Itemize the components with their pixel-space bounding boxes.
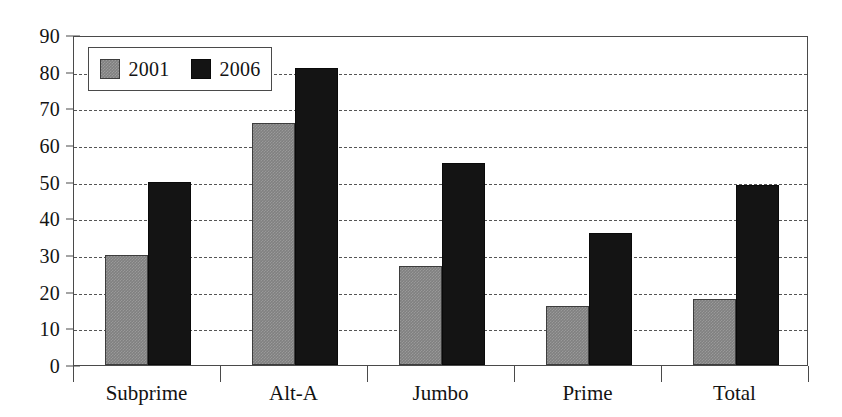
bar-alt-a-2001 bbox=[252, 123, 295, 365]
bar-chart: 0102030405060708090 SubprimeAlt-AJumboPr… bbox=[0, 0, 842, 417]
x-tick-mark bbox=[514, 366, 515, 382]
legend-entry-2006: 2006 bbox=[191, 59, 261, 79]
x-tick-label-subprime: Subprime bbox=[106, 383, 188, 404]
legend: 2001 2006 bbox=[88, 47, 272, 91]
legend-swatch-2006-icon bbox=[191, 59, 211, 79]
x-tick-label-jumbo: Jumbo bbox=[412, 383, 468, 404]
y-tick-label: 30 bbox=[14, 246, 60, 266]
y-tick-label: 80 bbox=[14, 63, 60, 83]
x-tick-label-alt-a: Alt-A bbox=[269, 383, 318, 404]
y-tick-label: 10 bbox=[14, 319, 60, 339]
bar-subprime-2006 bbox=[148, 182, 191, 365]
bar-total-2006 bbox=[736, 185, 779, 365]
y-tick-label: 90 bbox=[14, 26, 60, 46]
x-tick-mark bbox=[73, 366, 74, 382]
gridline bbox=[74, 147, 807, 148]
y-tick-label: 70 bbox=[14, 99, 60, 119]
x-tick-mark bbox=[220, 366, 221, 382]
legend-label-2006: 2006 bbox=[220, 59, 261, 79]
bar-prime-2001 bbox=[546, 306, 589, 365]
legend-entry-2001: 2001 bbox=[100, 59, 170, 79]
bar-prime-2006 bbox=[589, 233, 632, 365]
x-tick-label-prime: Prime bbox=[562, 383, 612, 404]
y-tick-label: 60 bbox=[14, 136, 60, 156]
x-tick-mark bbox=[808, 366, 809, 382]
y-tick-label: 20 bbox=[14, 283, 60, 303]
legend-swatch-2001-icon bbox=[100, 59, 120, 79]
bar-total-2001 bbox=[693, 299, 736, 365]
bar-jumbo-2001 bbox=[399, 266, 442, 365]
bar-jumbo-2006 bbox=[442, 163, 485, 365]
x-tick-mark bbox=[367, 366, 368, 382]
gridline bbox=[74, 110, 807, 111]
x-tick-mark bbox=[661, 366, 662, 382]
y-tick-label: 50 bbox=[14, 173, 60, 193]
x-tick-label-total: Total bbox=[713, 383, 756, 404]
legend-label-2001: 2001 bbox=[129, 59, 170, 79]
y-tick-label: 40 bbox=[14, 209, 60, 229]
bar-alt-a-2006 bbox=[295, 68, 338, 365]
bar-subprime-2001 bbox=[105, 255, 148, 365]
y-tick-label: 0 bbox=[14, 356, 60, 376]
